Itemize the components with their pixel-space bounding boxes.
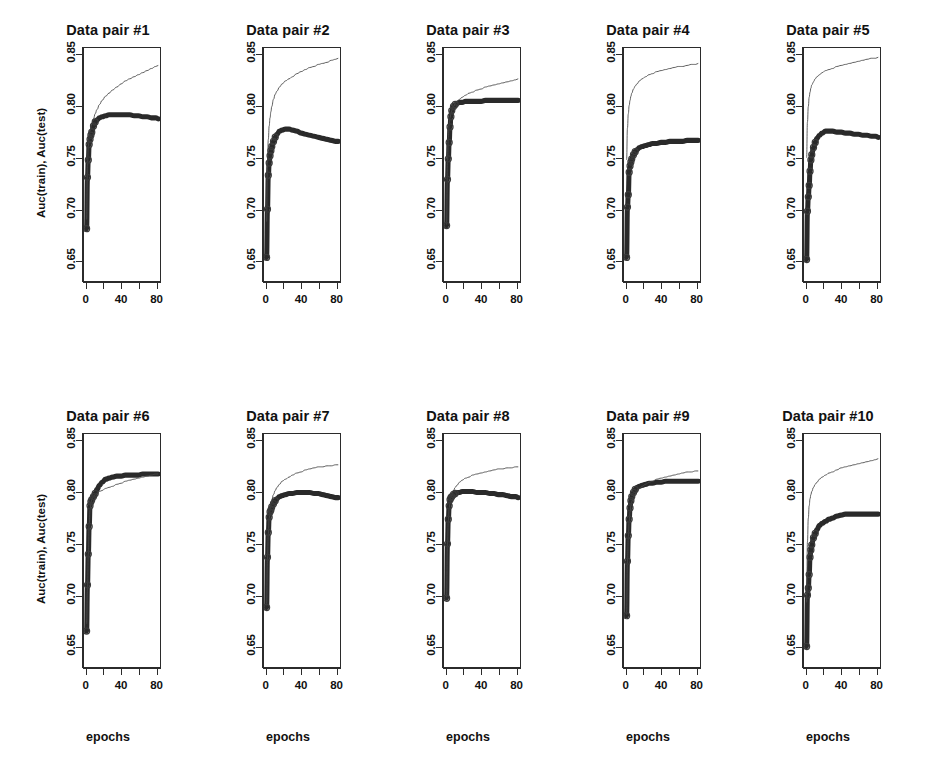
- y-tick: [76, 54, 83, 55]
- series-auc-train: [87, 65, 159, 219]
- x-tick: [517, 282, 518, 289]
- y-tick-label: 0.70: [245, 197, 257, 219]
- x-tick-label: 80: [870, 679, 883, 691]
- y-tick-label: 0.85: [605, 427, 617, 449]
- y-tick: [256, 106, 263, 107]
- y-tick: [256, 54, 263, 55]
- y-tick: [76, 596, 83, 597]
- y-tick: [796, 54, 803, 55]
- panel-title: Data pair #3: [378, 22, 558, 38]
- series-auc-test: [627, 140, 699, 257]
- x-tick: [121, 668, 122, 675]
- y-tick: [76, 261, 83, 262]
- y-tick-label: 0.80: [245, 93, 257, 115]
- x-tick: [859, 282, 860, 289]
- y-tick: [436, 596, 443, 597]
- x-tick: [463, 282, 464, 289]
- y-tick: [796, 596, 803, 597]
- y-axis: 0.650.700.750.800.85: [72, 433, 83, 668]
- x-axis: 04080: [83, 282, 161, 293]
- plot-area: [623, 433, 701, 668]
- y-tick-label: 0.80: [785, 93, 797, 115]
- series-auc-train: [447, 467, 519, 597]
- x-tick-label: 0: [442, 679, 448, 691]
- x-tick: [841, 282, 842, 289]
- y-tick-label: 0.65: [65, 634, 77, 656]
- x-tick: [841, 668, 842, 675]
- plot-inner: [264, 48, 340, 281]
- panel-7: Data pair #70.650.700.750.800.8504080: [198, 386, 378, 772]
- x-tick-label: 40: [295, 679, 308, 691]
- y-tick: [256, 596, 263, 597]
- y-tick-label: 0.65: [65, 248, 77, 270]
- plot-inner: [84, 48, 160, 281]
- y-tick: [436, 210, 443, 211]
- panel-title: Data pair #8: [378, 408, 558, 424]
- y-tick-label: 0.80: [65, 479, 77, 501]
- y-tick-label: 0.70: [425, 583, 437, 605]
- y-tick-label: 0.65: [245, 248, 257, 270]
- y-axis: 0.650.700.750.800.85: [432, 47, 443, 282]
- x-tick: [121, 282, 122, 289]
- x-tick-label: 0: [622, 293, 628, 305]
- plot-inner: [624, 48, 700, 281]
- x-tick-label: 0: [622, 679, 628, 691]
- x-tick: [481, 282, 482, 289]
- y-tick-label: 0.65: [605, 634, 617, 656]
- plot-area: [443, 433, 521, 668]
- y-tick: [256, 647, 263, 648]
- x-tick: [157, 282, 158, 289]
- x-axis-title: epochs: [738, 730, 918, 744]
- y-tick: [256, 544, 263, 545]
- y-axis: 0.650.700.750.800.85: [792, 47, 803, 282]
- y-tick-label: 0.80: [65, 93, 77, 115]
- y-tick: [76, 647, 83, 648]
- y-axis: 0.650.700.750.800.85: [792, 433, 803, 668]
- plot-inner: [444, 434, 520, 667]
- x-tick: [103, 282, 104, 289]
- y-tick-label: 0.75: [605, 145, 617, 167]
- x-tick: [446, 668, 447, 675]
- x-tick: [266, 668, 267, 675]
- multi-panel-chart-figure: Data pair #10.650.700.750.800.8504080Dat…: [0, 0, 945, 772]
- y-axis: 0.650.700.750.800.85: [72, 47, 83, 282]
- y-tick: [76, 210, 83, 211]
- x-tick: [337, 282, 338, 289]
- x-tick: [319, 668, 320, 675]
- x-tick: [157, 668, 158, 675]
- x-tick: [139, 282, 140, 289]
- y-tick: [76, 106, 83, 107]
- x-tick: [139, 668, 140, 675]
- x-tick-label: 80: [330, 293, 343, 305]
- x-tick-label: 80: [150, 679, 163, 691]
- y-tick: [616, 492, 623, 493]
- y-tick-label: 0.70: [605, 197, 617, 219]
- x-tick-label: 40: [655, 679, 668, 691]
- y-tick-label: 0.85: [65, 41, 77, 63]
- y-tick: [796, 158, 803, 159]
- y-tick-label: 0.70: [65, 583, 77, 605]
- x-tick: [319, 282, 320, 289]
- x-tick: [877, 668, 878, 675]
- plot-inner: [804, 434, 880, 667]
- x-axis-title: epochs: [378, 730, 558, 744]
- y-tick-label: 0.85: [245, 41, 257, 63]
- y-tick: [436, 440, 443, 441]
- plot-area: [443, 47, 521, 282]
- y-tick-label: 0.70: [65, 197, 77, 219]
- y-tick-label: 0.75: [785, 531, 797, 553]
- x-tick: [661, 668, 662, 675]
- series-auc-test: [447, 100, 519, 225]
- x-tick-label: 80: [870, 293, 883, 305]
- x-tick: [499, 668, 500, 675]
- y-tick-label: 0.75: [65, 145, 77, 167]
- y-tick: [796, 440, 803, 441]
- y-tick: [796, 261, 803, 262]
- y-tick-label: 0.80: [605, 93, 617, 115]
- x-tick: [806, 668, 807, 675]
- y-tick: [436, 106, 443, 107]
- panel-title: Data pair #7: [198, 408, 378, 424]
- y-tick: [436, 54, 443, 55]
- x-axis: 04080: [623, 668, 701, 679]
- y-tick-label: 0.80: [785, 479, 797, 501]
